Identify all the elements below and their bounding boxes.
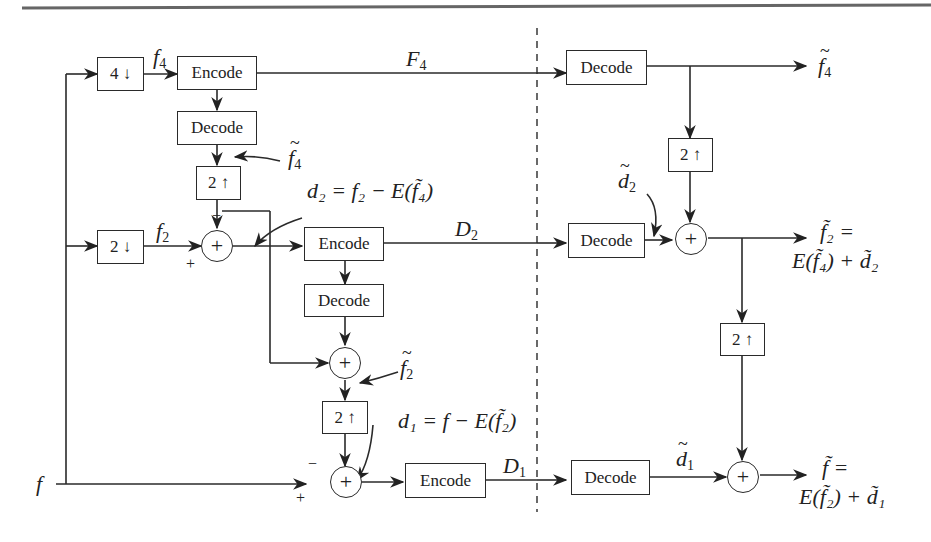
down-arrow-icon: ↓ xyxy=(123,237,132,257)
summer-f2-out: + xyxy=(675,223,707,255)
up-arrow-icon: ↑ xyxy=(745,330,754,350)
decode-block-top-rx: Decode xyxy=(566,50,647,85)
equation-d2: d₂ = f₂ − E(f̃₄) xyxy=(307,180,433,202)
encode-block-bottom: Encode xyxy=(405,463,486,498)
up-arrow-icon: ↑ xyxy=(693,145,702,165)
symbol: d xyxy=(676,448,687,470)
symbol: D xyxy=(455,216,471,241)
summer-d2: + xyxy=(201,230,233,262)
encode-block-mid: Encode xyxy=(304,227,384,261)
downsample-by-2-block: 2 ↓ xyxy=(97,230,144,264)
label-F4: F4 xyxy=(406,48,426,73)
label-f2: f2 xyxy=(156,220,169,245)
symbol: D xyxy=(503,453,519,478)
output-f4-tilde: f4 xyxy=(818,55,831,80)
factor-label: 2 xyxy=(334,408,343,428)
downsample-by-4-block: 4 ↓ xyxy=(97,57,144,91)
summer-f2-reconstruct: + xyxy=(329,347,361,379)
subscript: 1 xyxy=(519,465,526,480)
summer-d1: + xyxy=(330,466,362,498)
subscript: 4 xyxy=(824,65,831,80)
subscript: 2 xyxy=(162,230,169,245)
decode-block-top-local: Decode xyxy=(177,111,257,145)
subscript: 2 xyxy=(471,228,478,243)
symbol: d xyxy=(618,170,629,192)
subscript: 2 xyxy=(406,367,413,382)
factor-label: 2 xyxy=(208,173,217,193)
symbol: f xyxy=(400,357,406,379)
label-d2-tilde: d2 xyxy=(618,170,636,195)
decode-block-mid-local: Decode xyxy=(304,284,384,317)
label-f-input: f xyxy=(36,473,42,495)
symbol: f xyxy=(288,147,294,169)
pyramid-coding-diagram: 4 ↓ Encode Decode 2 ↑ 2 ↓ + Encode Decod… xyxy=(0,0,931,542)
encode-block-top: Encode xyxy=(177,56,257,90)
label-d1-tilde: d1 xyxy=(676,448,694,473)
up-arrow-icon: ↑ xyxy=(221,173,230,193)
decode-block-mid-rx: Decode xyxy=(568,223,645,258)
factor-label: 2 xyxy=(732,330,741,350)
subscript: 4 xyxy=(294,157,301,172)
minus-sign: − xyxy=(212,208,221,224)
label-f4: f4 xyxy=(153,46,166,71)
label-D1: D1 xyxy=(503,455,526,480)
subscript: 2 xyxy=(629,180,636,195)
upsample-by-2-block-dec-top: 2 ↑ xyxy=(668,138,713,172)
upsample-by-2-block-dec-mid: 2 ↑ xyxy=(720,323,765,356)
label-f4-tilde-local: f4 xyxy=(288,147,301,172)
output-f-line1: f̃ = xyxy=(822,457,848,479)
down-arrow-icon: ↓ xyxy=(123,64,132,84)
output-f2-line1: f̃₂ = xyxy=(820,221,854,243)
plus-sign: + xyxy=(296,490,305,506)
factor-label: 2 xyxy=(680,145,689,165)
output-f-line2: E(f̃₂) + d̃₁ xyxy=(799,486,885,508)
decode-block-bottom-rx: Decode xyxy=(571,460,650,495)
subscript: 4 xyxy=(419,58,426,73)
symbol: f xyxy=(818,55,824,77)
up-arrow-icon: ↑ xyxy=(347,408,356,428)
upsample-by-2-block-top: 2 ↑ xyxy=(196,166,241,200)
factor-label: 4 xyxy=(110,64,119,84)
equation-d1: d₁ = f − E(f̃₂) xyxy=(398,410,516,432)
label-D2: D2 xyxy=(455,218,478,243)
subscript: 1 xyxy=(687,458,694,473)
summer-f-out: + xyxy=(727,461,759,493)
label-f2-tilde-local: f2 xyxy=(400,357,413,382)
output-f2-line2: E(f̃₄) + d̃₂ xyxy=(792,250,878,272)
symbol: F xyxy=(406,46,419,71)
upsample-by-2-block-mid: 2 ↑ xyxy=(322,401,368,434)
subscript: 4 xyxy=(159,56,166,71)
plus-sign: + xyxy=(186,256,195,272)
factor-label: 2 xyxy=(110,237,119,257)
minus-sign: − xyxy=(308,456,317,472)
